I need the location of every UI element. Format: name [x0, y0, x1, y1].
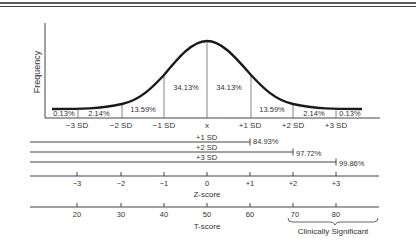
sd-label: −1 SD: [153, 121, 176, 130]
region-label: 2.14%: [303, 109, 325, 118]
t-score-ticks: [77, 203, 336, 207]
z-tick-label: 0: [205, 179, 209, 188]
t-score-tick-labels: 20 30 40 50 60 70 80: [73, 210, 340, 219]
cumulative-bars: [30, 139, 336, 166]
cumulative-labels: +1 SD +2 SD +3 SD 84.93% 97.72% 99.86%: [196, 133, 365, 168]
z-score-ticks: [77, 172, 336, 176]
t-tick-label: 70: [291, 210, 299, 219]
normal-distribution-chart: Frequency 0.13% 2.14% 13.59% 34.13% 34.1…: [0, 0, 416, 246]
y-axis-label: Frequency: [32, 50, 42, 93]
t-tick-label: 20: [73, 210, 81, 219]
z-score-tick-labels: −3 −2 −1 0 +1 +2 +3: [73, 179, 341, 188]
region-label: 13.59%: [130, 105, 156, 114]
region-label: 34.13%: [216, 83, 242, 92]
region-label: 2.14%: [88, 109, 110, 118]
z-tick-label: +2: [289, 179, 298, 188]
sd-label: +1 SD: [239, 121, 262, 130]
region-label: 13.59%: [259, 105, 285, 114]
cumulative-value: 97.72%: [296, 149, 322, 158]
sd-label: +3 SD: [325, 121, 348, 130]
z-score-axis-label: Z-score: [193, 190, 221, 199]
t-tick-label: 80: [332, 210, 340, 219]
cumulative-sd-label: +2 SD: [196, 143, 218, 152]
sd-label: −2 SD: [110, 121, 133, 130]
sd-label: +2 SD: [282, 121, 305, 130]
t-tick-label: 50: [203, 210, 211, 219]
z-tick-label: −3: [73, 179, 82, 188]
sd-label: x: [205, 121, 209, 130]
sd-labels: −3 SD −2 SD −1 SD x +1 SD +2 SD +3 SD: [66, 121, 348, 130]
z-tick-label: −2: [117, 179, 126, 188]
region-label: 34.13%: [173, 83, 199, 92]
z-tick-label: −1: [160, 179, 169, 188]
sd-dividers: [78, 41, 336, 118]
cumulative-sd-label: +1 SD: [196, 133, 218, 142]
clinically-significant-brace: [288, 218, 378, 225]
region-label: 0.13%: [339, 109, 361, 118]
z-tick-label: +1: [246, 179, 255, 188]
t-tick-label: 30: [117, 210, 125, 219]
cumulative-value: 99.86%: [339, 159, 365, 168]
cumulative-sd-label: +3 SD: [196, 153, 218, 162]
t-score-axis-label: T-score: [194, 222, 221, 231]
z-tick-label: +3: [332, 179, 341, 188]
clinically-significant-label: Clinically Significant: [298, 227, 369, 236]
t-tick-label: 40: [160, 210, 168, 219]
cumulative-value: 84.93%: [253, 137, 279, 146]
region-label: 0.13%: [53, 109, 75, 118]
t-tick-label: 60: [246, 210, 254, 219]
sd-label: −3 SD: [66, 121, 89, 130]
